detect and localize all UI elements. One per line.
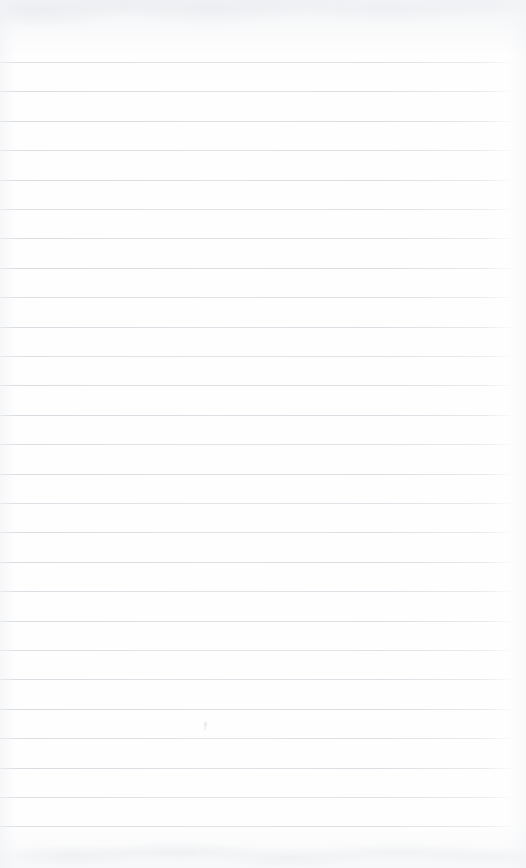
ruled-line <box>0 826 515 827</box>
ruled-line <box>0 121 515 122</box>
ruled-line <box>0 709 515 710</box>
ruled-line <box>0 679 515 680</box>
ruled-line <box>0 621 515 622</box>
ruled-line <box>0 150 515 151</box>
ruled-line <box>0 444 515 445</box>
ruled-line <box>0 62 515 63</box>
ruled-line <box>0 209 515 210</box>
scanned-notepad-page <box>0 0 526 868</box>
ruled-line <box>0 768 515 769</box>
ruled-line <box>0 91 515 92</box>
ruled-line <box>0 532 515 533</box>
ruled-line <box>0 297 515 298</box>
ruled-line <box>0 238 515 239</box>
ruled-line <box>0 797 515 798</box>
ruled-line <box>0 562 515 563</box>
ruled-line <box>0 650 515 651</box>
ruled-line <box>0 738 515 739</box>
ruled-line <box>0 180 515 181</box>
ruled-line <box>0 591 515 592</box>
ruled-line <box>0 415 515 416</box>
ruled-line <box>0 356 515 357</box>
ruled-lines-layer <box>0 0 526 868</box>
ruled-line <box>0 474 515 475</box>
ruled-line <box>0 268 515 269</box>
ruled-line <box>0 385 515 386</box>
ruled-line <box>0 503 515 504</box>
ruled-line <box>0 327 515 328</box>
